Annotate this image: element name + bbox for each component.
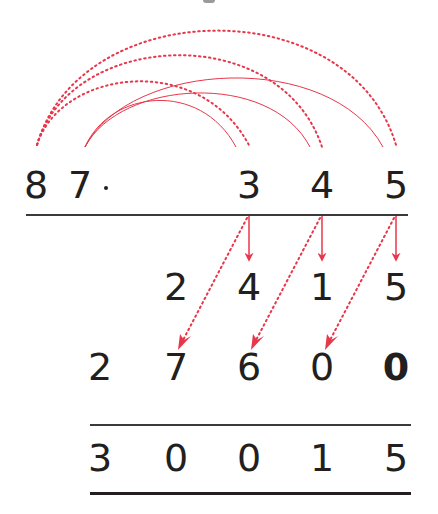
sum-rule (90, 424, 411, 426)
result-digit: 0 (234, 439, 264, 477)
partial1-digit: 2 (161, 268, 191, 306)
arc-8-to-4 (37, 55, 322, 147)
partial2-digit: 6 (234, 348, 264, 386)
arc-7-to-4 (85, 93, 310, 147)
result-digit: 1 (307, 439, 337, 477)
partial1-digit: 4 (234, 268, 264, 306)
partial2-digit: 7 (161, 348, 191, 386)
arc-7-to-5 (85, 78, 383, 147)
top-rule (26, 214, 408, 216)
multiplier-digit-4: 4 (307, 166, 337, 204)
arc-8-to-5 (37, 31, 396, 145)
connector-overlay (0, 0, 438, 514)
partial2-digit: 2 (85, 348, 115, 386)
straight-arrows (249, 216, 396, 260)
result-digit: 0 (161, 439, 191, 477)
multiplier-digit-3: 3 (234, 166, 264, 204)
partial2-digit-bold-placeholder: 0 (381, 348, 411, 386)
result-digit: 3 (85, 439, 115, 477)
arc-8-to-3 (37, 81, 250, 147)
arc-7-to-3 (85, 100, 236, 147)
result-digit: 5 (381, 439, 411, 477)
diagonal-arrows (181, 218, 394, 344)
solid-arcs-from-7 (85, 78, 383, 147)
dotted-arcs-from-8 (37, 31, 396, 147)
multiplication-diagram: 8 7 3 4 5 2 4 1 5 2 7 6 0 0 3 0 0 1 5 (0, 0, 438, 514)
result-underline (90, 492, 411, 495)
multiplicand-digit-8: 8 (21, 166, 51, 204)
partial1-digit: 1 (307, 268, 337, 306)
multiplication-operator (104, 186, 108, 190)
multiplier-digit-5: 5 (381, 166, 411, 204)
partial1-digit: 5 (381, 268, 411, 306)
multiplicand-digit-7: 7 (65, 166, 95, 204)
partial2-digit: 0 (307, 348, 337, 386)
